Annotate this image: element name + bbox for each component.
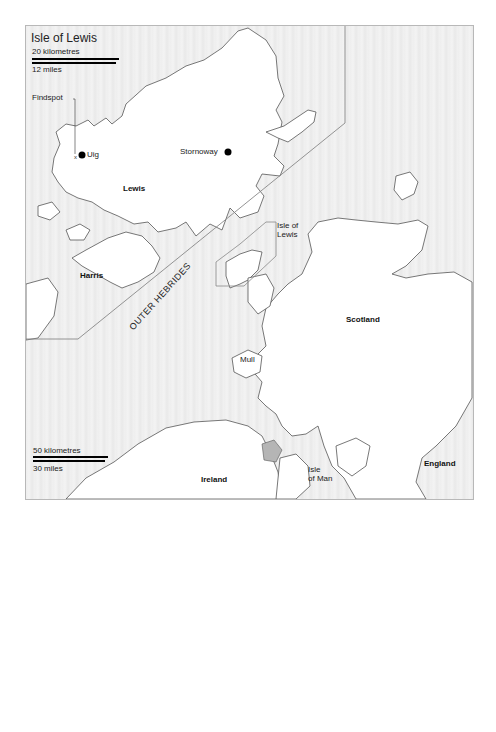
label-harris: Harris — [80, 272, 103, 280]
main-scale-mi: 30 miles — [33, 465, 63, 473]
inset-scale-km: 20 kilometres — [32, 48, 80, 56]
label-england: England — [424, 460, 456, 468]
main-scale-km: 50 kilometres — [33, 447, 81, 455]
lough-neagh — [262, 440, 282, 462]
inset-scale-mi: 12 miles — [32, 66, 62, 74]
svg-text:x: x — [74, 154, 77, 160]
label-scotland: Scotland — [346, 316, 380, 324]
uig-dot — [79, 152, 86, 159]
label-stornoway: Stornoway — [180, 148, 218, 156]
map-title: Isle of Lewis — [31, 32, 97, 44]
label-findspot: Findspot — [32, 94, 63, 102]
inset-scale-bar-km — [32, 58, 119, 60]
label-isle-of-man-1: Isle — [308, 466, 320, 474]
label-isle-of-man-2: of Man — [308, 475, 332, 483]
label-ireland: Ireland — [201, 476, 227, 484]
main-scale-bar-mi — [33, 460, 105, 462]
label-isle-of-lewis-2: Lewis — [277, 231, 297, 239]
map-svg: x — [26, 26, 473, 499]
label-isle-of-lewis-1: Isle of — [277, 222, 298, 230]
label-lewis: Lewis — [123, 185, 145, 193]
main-scale-bar-km — [33, 456, 108, 458]
label-mull: Mull — [240, 356, 255, 364]
stornoway-dot — [225, 149, 232, 156]
label-uig: Uig — [87, 151, 99, 159]
map-frame: x Isle of Lewis 20 kilometres 12 miles F… — [25, 25, 474, 500]
inset-scale-bar-mi — [32, 62, 116, 64]
